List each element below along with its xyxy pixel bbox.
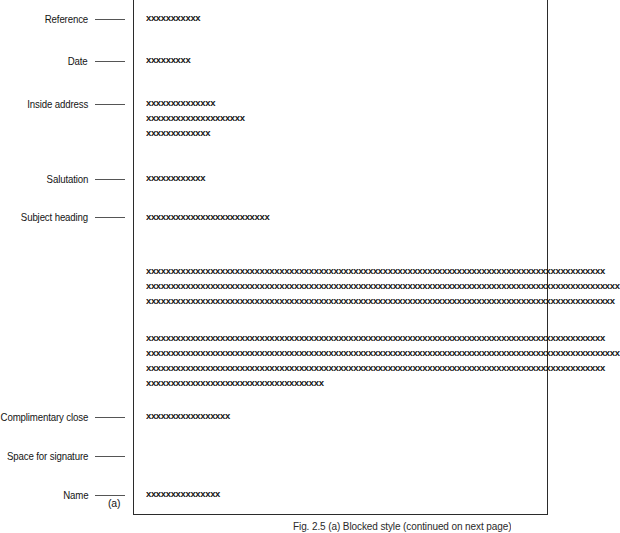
leader-line-name <box>95 495 125 496</box>
label-name-text: Name <box>63 488 88 502</box>
label-subject-heading-text: Subject heading <box>21 210 88 224</box>
label-reference: Reference <box>0 12 133 26</box>
label-inside-address: Inside address <box>0 97 133 111</box>
figure-caption: Fig. 2.5 (a) Blocked style (continued on… <box>293 521 511 533</box>
leader-line-space-for-signature <box>95 456 125 457</box>
leader-line-subject-heading <box>95 217 125 218</box>
leader-line-complimentary-close <box>95 417 125 418</box>
letter-body2-line-2: xxxxxxxxxxxxxxxxxxxxxxxxxxxxxxxxxxxxxxxx… <box>146 347 620 358</box>
letter-body-box: xxxxxxxxxxxxxxxxxxxxxxxxxxxxxxxxxxxxxxxx… <box>133 0 548 515</box>
letter-salutation-line: xxxxxxxxxxxx <box>146 172 205 183</box>
label-space-for-signature-text: Space for signature <box>7 449 88 463</box>
label-date: Date <box>0 54 133 68</box>
letter-inside-address-line-3: xxxxxxxxxxxxx <box>146 127 210 138</box>
label-complimentary-close: Complimentary close <box>0 410 133 424</box>
label-inside-address-text: Inside address <box>27 97 88 111</box>
letter-body2-line-3: xxxxxxxxxxxxxxxxxxxxxxxxxxxxxxxxxxxxxxxx… <box>146 362 605 373</box>
label-salutation-text: Salutation <box>46 172 88 186</box>
letter-body1-line-2: xxxxxxxxxxxxxxxxxxxxxxxxxxxxxxxxxxxxxxxx… <box>146 280 620 291</box>
letter-body2-line-1: xxxxxxxxxxxxxxxxxxxxxxxxxxxxxxxxxxxxxxxx… <box>146 332 605 343</box>
letter-name-line: xxxxxxxxxxxxxxx <box>146 488 220 499</box>
label-salutation: Salutation <box>0 172 133 186</box>
label-complimentary-close-text: Complimentary close <box>0 410 88 424</box>
leader-line-reference <box>95 19 125 20</box>
leader-line-date <box>95 61 125 62</box>
label-space-for-signature: Space for signature <box>0 449 133 463</box>
letter-subject-heading-line: xxxxxxxxxxxxxxxxxxxxxxxxx <box>146 211 269 222</box>
label-reference-text: Reference <box>45 12 88 26</box>
letter-body1-line-1: xxxxxxxxxxxxxxxxxxxxxxxxxxxxxxxxxxxxxxxx… <box>146 265 605 276</box>
label-date-text: Date <box>68 54 88 68</box>
leader-line-inside-address <box>95 104 125 105</box>
letter-body1-line-3: xxxxxxxxxxxxxxxxxxxxxxxxxxxxxxxxxxxxxxxx… <box>146 295 615 306</box>
letter-body2-line-4: xxxxxxxxxxxxxxxxxxxxxxxxxxxxxxxxxxxx <box>146 377 324 388</box>
leader-line-salutation <box>95 179 125 180</box>
letter-reference-line: xxxxxxxxxxx <box>146 12 200 23</box>
subfigure-tag: (a) <box>108 497 120 509</box>
letter-date-line: xxxxxxxxx <box>146 54 190 65</box>
label-subject-heading: Subject heading <box>0 210 133 224</box>
letter-inside-address-line-2: xxxxxxxxxxxxxxxxxxxx <box>146 112 245 123</box>
letter-complimentary-close-line: xxxxxxxxxxxxxxxxx <box>146 410 230 421</box>
letter-inside-address-line-1: xxxxxxxxxxxxxx <box>146 97 215 108</box>
